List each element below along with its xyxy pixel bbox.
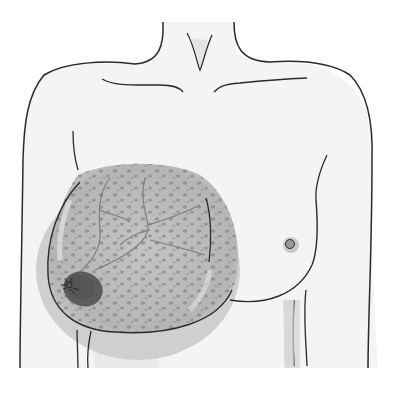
torso-illustration <box>0 0 396 395</box>
normal-nipple <box>286 240 295 249</box>
